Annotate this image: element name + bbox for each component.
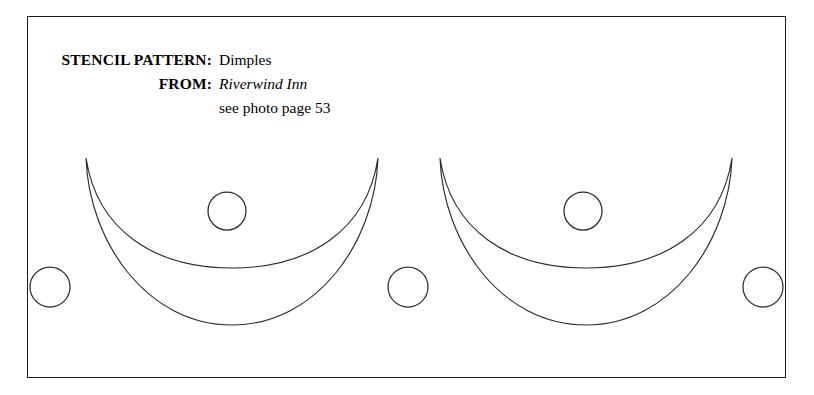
dimple-center [388,267,428,307]
dimple-far-left [30,267,70,307]
crescent-right [440,158,732,325]
stencil-artwork [27,16,786,378]
dimple-left-crescent [208,192,246,230]
crescent-left [86,158,378,325]
dimple-far-right [743,267,783,307]
stencil-page: STENCIL PATTERN: Dimples FROM: Riverwind… [0,0,814,395]
dimple-right-crescent [564,192,602,230]
